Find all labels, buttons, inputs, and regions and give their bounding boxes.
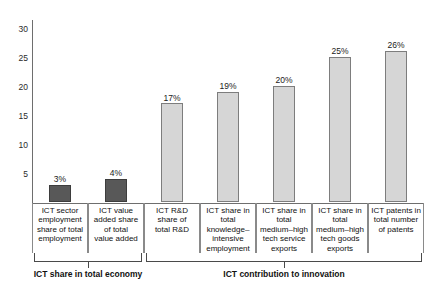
category-label-cell: ICT share intotalknowledge–intensiveempl… (200, 203, 256, 253)
category-label-cell: ICT patents intotal numberof patents (368, 203, 424, 253)
bar: 3% (49, 185, 71, 202)
bar: 25% (329, 57, 351, 202)
category-label-text: ICT sectoremploymentshare of totalemploy… (36, 206, 84, 244)
y-axis-tick-15: 15 (19, 112, 28, 121)
group-bracket (146, 253, 422, 262)
group-bracket-stem (88, 262, 89, 268)
bar-value-label: 17% (163, 94, 180, 103)
y-axis-tick-20: 20 (19, 83, 28, 92)
bar-value-label: 19% (219, 82, 236, 91)
category-label-text: ICT share intotalmedium–hightech goodsex… (315, 206, 365, 253)
category-label-text: ICT share intotalknowledge–intensiveempl… (205, 206, 251, 253)
category-label-text: ICT R&Dshare oftotal R&D (154, 206, 190, 234)
bar: 17% (161, 103, 183, 202)
category-label-band: ICT sectoremploymentshare of totalemploy… (32, 203, 424, 253)
bar: 4% (105, 179, 127, 202)
group-label: ICT share in total economy (34, 270, 143, 279)
category-label-cell: ICT sectoremploymentshare of totalemploy… (32, 203, 88, 253)
y-axis-tick-25: 25 (19, 54, 28, 63)
bar-value-label: 3% (54, 175, 66, 184)
plot-area: 51015202530 3%4%17%19%20%25%26% (32, 20, 424, 203)
group-bracket (34, 253, 142, 262)
bar-value-label: 26% (387, 41, 404, 50)
bar-chart: 51015202530 3%4%17%19%20%25%26% ICT sect… (0, 0, 427, 302)
category-label-text: ICT patents intotal numberof patents (370, 206, 422, 234)
category-label-cell: ICT share intotalmedium–hightech goodsex… (312, 203, 368, 253)
category-label-text: ICT valueadded shareof totalvalue added (93, 206, 139, 244)
category-label-cell: ICT R&Dshare oftotal R&D (144, 203, 200, 253)
bar-value-label: 4% (110, 169, 122, 178)
bar: 26% (385, 51, 407, 202)
y-axis-line (32, 20, 33, 204)
group-bracket-band: ICT share in total economyICT contributi… (32, 253, 424, 302)
category-label-cell: ICT share intotalmedium–hightech service… (256, 203, 312, 253)
bar: 20% (273, 86, 295, 202)
bar-value-label: 20% (275, 76, 292, 85)
category-label-cell: ICT valueadded shareof totalvalue added (88, 203, 144, 253)
category-label-text: ICT share intotalmedium–hightech service… (259, 206, 309, 253)
bar: 19% (217, 92, 239, 202)
y-axis-tick-10: 10 (19, 141, 28, 150)
y-axis-tick-5: 5 (23, 170, 28, 179)
group-label: ICT contribution to innovation (223, 270, 344, 279)
group-bracket-stem (284, 262, 285, 268)
bar-value-label: 25% (331, 47, 348, 56)
y-axis-tick-30: 30 (19, 24, 28, 33)
